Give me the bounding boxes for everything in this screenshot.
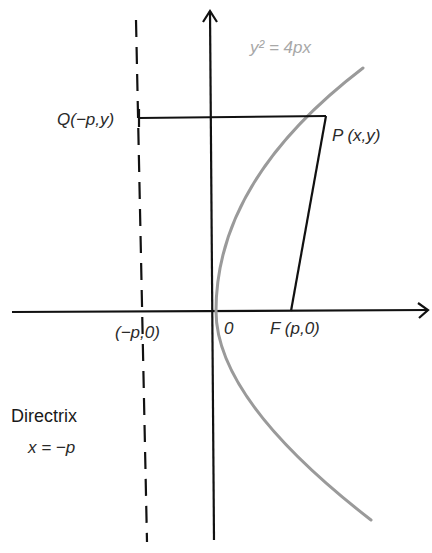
equation-label: y² = 4px bbox=[249, 38, 311, 57]
parabola-diagram: y² = 4px Q(−p,y) P (x,y) (−p,0) 0 F (p,0… bbox=[0, 0, 432, 553]
segment-PF bbox=[291, 116, 326, 311]
directrix-title: Directrix bbox=[11, 406, 77, 426]
origin-label: 0 bbox=[224, 319, 234, 338]
directrix-line bbox=[136, 20, 147, 542]
point-Q-label: Q(−p,y) bbox=[57, 110, 114, 129]
y-axis bbox=[203, 11, 217, 540]
point-P-label: P (x,y) bbox=[332, 126, 380, 145]
focus-F-label: F (p,0) bbox=[270, 319, 320, 338]
x-axis bbox=[12, 303, 428, 318]
segment-QP bbox=[139, 116, 326, 118]
directrix-equation: x = −p bbox=[27, 438, 75, 457]
directrix-intercept-label: (−p,0) bbox=[115, 323, 160, 342]
